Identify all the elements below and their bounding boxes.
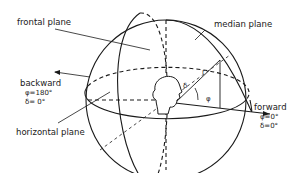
- frontal-plane-label: frontal plane: [17, 18, 71, 27]
- horizontal-plane-label: horizontal plane: [16, 128, 85, 137]
- forward-phi: φ=0°: [260, 114, 278, 121]
- frontal-plane-leader: [55, 29, 150, 50]
- forward-delta: δ=0°: [260, 123, 278, 130]
- delta-symbol: δ: [183, 83, 187, 90]
- head-icon: [153, 76, 182, 114]
- backward-label: backward: [20, 79, 61, 88]
- forward-label: forward: [254, 103, 287, 112]
- r-symbol: r: [202, 69, 205, 76]
- backward-arrow-head: [54, 70, 60, 75]
- frontal-plane-front: [118, 13, 150, 173]
- median-plane-label: median plane: [214, 20, 272, 29]
- phi-symbol: φ: [206, 96, 211, 103]
- backward-delta: δ= 0°: [25, 99, 45, 106]
- horizontal-plane-leader: [58, 92, 110, 123]
- sphere-coordinate-diagram: frontal plane median plane horizontal pl…: [0, 0, 301, 173]
- median-plane-leader: [195, 30, 205, 40]
- backward-phi: φ=180°: [25, 90, 52, 97]
